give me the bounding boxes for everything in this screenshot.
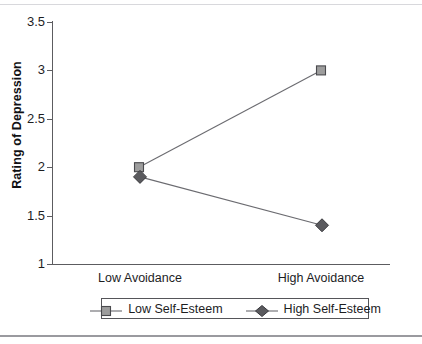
marker-diamond-high-avoidance — [316, 219, 329, 232]
series-line-low-self-esteem — [139, 70, 321, 167]
legend: Low Self-Esteem High Self-Esteem — [101, 298, 369, 319]
depression-avoidance-line-chart: 3.5 3 2.5 2 1.5 1 Rating of Depression L… — [0, 0, 422, 344]
series-line-high-self-esteem — [140, 177, 322, 225]
legend-marker-diamond-icon — [245, 303, 279, 315]
data-layer — [0, 0, 422, 344]
marker-diamond-low-avoidance — [134, 170, 147, 183]
legend-item-high-self-esteem: High Self-Esteem — [245, 302, 381, 316]
legend-marker-square-icon — [89, 303, 123, 315]
marker-square-low-avoidance — [135, 163, 144, 172]
legend-label-high-self-esteem: High Self-Esteem — [284, 302, 381, 316]
legend-label-low-self-esteem: Low Self-Esteem — [128, 302, 222, 316]
marker-square-high-avoidance — [317, 66, 326, 75]
legend-item-low-self-esteem: Low Self-Esteem — [89, 302, 222, 316]
